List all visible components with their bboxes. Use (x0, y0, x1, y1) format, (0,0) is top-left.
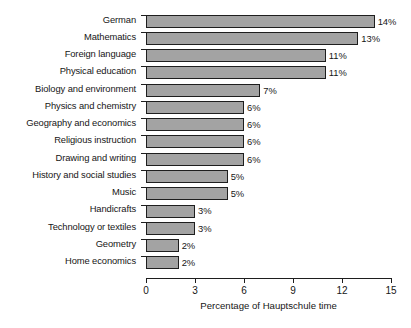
bar-row: 13% (146, 30, 391, 47)
bar-row: 6% (146, 117, 391, 134)
x-tick-label: 9 (290, 285, 296, 297)
bar-row: 6% (146, 99, 391, 116)
bar (146, 187, 228, 200)
bar-value-label: 2% (179, 256, 196, 269)
category-label: Geometry (0, 239, 136, 249)
x-axis-title: Percentage of Hauptschule time (146, 300, 391, 312)
category-label: Physics and chemistry (0, 101, 136, 111)
category-label: Geography and economics (0, 118, 136, 128)
bar-value-label: 6% (244, 135, 261, 148)
x-tick-label: 15 (385, 285, 396, 297)
bar-value-label: 11% (326, 49, 347, 62)
bar-row: 6% (146, 134, 391, 151)
bar (146, 49, 326, 62)
category-label: German (0, 15, 136, 25)
x-tick-mark (146, 278, 147, 283)
category-axis-labels: GermanMathematicsForeign languagePhysica… (0, 13, 140, 272)
bar-value-label: 3% (195, 204, 212, 217)
bar (146, 84, 260, 97)
bar (146, 66, 326, 79)
bar (146, 118, 244, 131)
bar-row: 2% (146, 237, 391, 254)
category-label: Handicrafts (0, 204, 136, 214)
bar (146, 239, 179, 252)
bar (146, 153, 244, 166)
bar (146, 15, 375, 28)
bar (146, 205, 195, 218)
x-tick-mark (342, 278, 343, 283)
bar (146, 222, 195, 235)
bar (146, 32, 358, 45)
bar-row: 2% (146, 255, 391, 272)
category-label: Physical education (0, 66, 136, 76)
bar-value-label: 2% (179, 239, 196, 252)
x-tick-label: 3 (192, 285, 198, 297)
bar-value-label: 3% (195, 222, 212, 235)
category-label: Music (0, 187, 136, 197)
x-tick-mark (391, 278, 392, 283)
category-label: Home economics (0, 256, 136, 266)
category-label: Biology and environment (0, 84, 136, 94)
bar-value-label: 6% (244, 153, 261, 166)
category-label: Foreign language (0, 49, 136, 59)
bar-value-label: 5% (228, 170, 245, 183)
category-label: Religious instruction (0, 135, 136, 145)
bar-value-label: 13% (358, 32, 380, 45)
bar-row: 14% (146, 13, 391, 30)
category-label: Technology or textiles (0, 222, 136, 232)
x-tick-label: 0 (143, 285, 149, 297)
category-label: Mathematics (0, 32, 136, 42)
bar-chart: GermanMathematicsForeign languagePhysica… (0, 0, 411, 328)
bar-value-label: 11% (326, 66, 347, 79)
x-tick-label: 12 (336, 285, 347, 297)
x-axis-line (146, 278, 391, 279)
bar-row: 3% (146, 220, 391, 237)
bar-row: 11% (146, 65, 391, 82)
bar-row: 3% (146, 203, 391, 220)
bar-value-label: 14% (375, 15, 397, 28)
bar-row: 5% (146, 186, 391, 203)
bar-value-label: 6% (244, 101, 261, 114)
bar (146, 101, 244, 114)
bar-row: 5% (146, 168, 391, 185)
bar-value-label: 7% (260, 84, 277, 97)
bar-value-label: 5% (228, 187, 245, 200)
x-tick-mark (293, 278, 294, 283)
plot-area: 14%13%11%11%7%6%6%6%6%5%5%3%3%2%2% (146, 13, 391, 272)
bar-value-label: 6% (244, 118, 261, 131)
x-tick-mark (195, 278, 196, 283)
bar (146, 256, 179, 269)
x-tick-mark (244, 278, 245, 283)
bar-row: 6% (146, 151, 391, 168)
x-tick-label: 6 (241, 285, 247, 297)
category-label: Drawing and writing (0, 153, 136, 163)
bar-row: 11% (146, 48, 391, 65)
bar (146, 135, 244, 148)
bar-row: 7% (146, 82, 391, 99)
category-label: History and social studies (0, 170, 136, 180)
bar (146, 170, 228, 183)
